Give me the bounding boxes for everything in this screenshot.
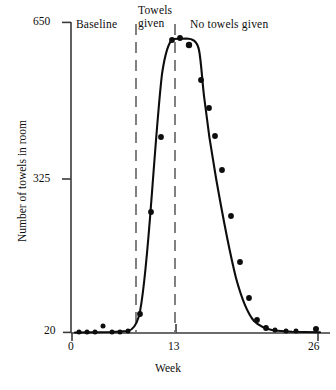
x-tick-label-13: 13 — [168, 340, 180, 352]
x-tick-label-0: 0 — [68, 340, 74, 352]
data-point — [148, 209, 154, 215]
data-point — [237, 259, 243, 265]
data-point — [263, 325, 269, 331]
data-point — [93, 330, 98, 335]
data-point — [85, 330, 90, 335]
phase-label-towels-given-line1: Towels — [138, 4, 172, 17]
data-point — [118, 330, 123, 335]
x-axis-title: Week — [0, 362, 336, 374]
y-tick-label-650: 650 — [33, 15, 50, 27]
data-point — [169, 37, 175, 43]
phase-label-no-towels-given: No towels given — [190, 18, 268, 31]
data-point — [246, 295, 252, 301]
y-axis — [62, 22, 71, 333]
data-point — [110, 330, 115, 335]
data-point — [177, 35, 183, 41]
y-axis-title: Number of towels in room — [16, 71, 28, 291]
data-point — [219, 167, 225, 173]
y-tick-label-20: 20 — [44, 324, 56, 336]
data-point — [284, 329, 289, 334]
data-point — [254, 317, 260, 323]
phase-label-baseline: Baseline — [76, 18, 117, 31]
data-point — [158, 134, 164, 140]
data-point — [126, 329, 131, 334]
data-point — [273, 328, 278, 333]
data-point — [186, 42, 192, 48]
data-point — [294, 329, 299, 334]
x-tick-label-26: 26 — [308, 340, 320, 352]
towels-line-chart: Baseline Towels given No towels given 65… — [0, 0, 336, 390]
data-point — [313, 326, 319, 332]
data-point — [212, 133, 218, 139]
phase-label-towels-given: Towels given — [138, 4, 172, 30]
data-point — [137, 311, 143, 317]
data-points — [77, 35, 320, 334]
data-line — [75, 39, 320, 333]
phase-label-towels-given-line2: given — [138, 17, 172, 30]
data-point — [228, 213, 234, 219]
data-point — [206, 105, 212, 111]
y-tick-label-325: 325 — [33, 172, 50, 184]
data-point — [101, 324, 106, 329]
data-point — [77, 330, 82, 335]
data-point — [198, 77, 204, 83]
